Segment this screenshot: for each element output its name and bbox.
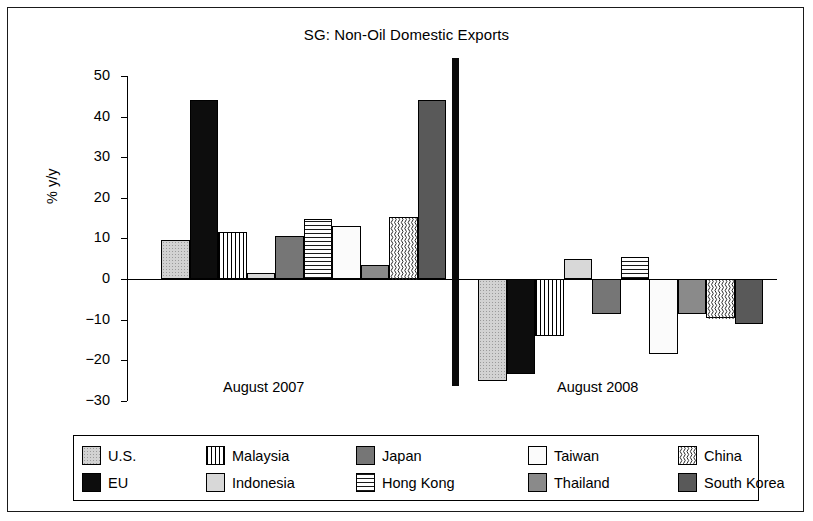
legend-swatch-icon (678, 446, 697, 465)
bar-eu-2008 (507, 279, 536, 374)
y-tick (121, 198, 127, 199)
bar-taiwan-2008 (649, 279, 678, 354)
group-label-2008: August 2008 (557, 379, 638, 395)
y-tick-label: 20 (64, 190, 110, 205)
legend-item-thailand[interactable]: Thailand (528, 473, 678, 492)
legend-swatch-icon (206, 446, 225, 465)
y-tick-label: 30 (64, 149, 110, 164)
legend-item-japan[interactable]: Japan (356, 446, 528, 465)
bar-hong-kong-2007 (304, 219, 333, 279)
legend-item-hong-kong[interactable]: Hong Kong (356, 473, 528, 492)
bar-hong-kong-2008 (621, 257, 650, 279)
bar-indonesia-2008 (564, 259, 593, 279)
legend-swatch-icon (206, 473, 225, 492)
bar-u-s-2008 (478, 279, 507, 381)
legend-item-taiwan[interactable]: Taiwan (528, 446, 678, 465)
legend-label: Japan (382, 448, 422, 464)
wavy-pattern (390, 218, 419, 280)
bar-japan-2007 (275, 236, 304, 279)
y-tick (121, 238, 127, 239)
legend-item-malaysia[interactable]: Malaysia (206, 446, 356, 465)
y-tick (121, 117, 127, 118)
bar-thailand-2008 (678, 279, 707, 314)
bar-u-s-2007 (161, 240, 190, 279)
y-tick-label: 0 (64, 271, 110, 286)
legend-swatch-icon (356, 473, 375, 492)
y-tick-label: 40 (64, 109, 110, 124)
bar-indonesia-2007 (247, 273, 276, 279)
legend-swatch-icon (528, 446, 547, 465)
bar-malaysia-2007 (218, 232, 247, 279)
wavy-pattern (707, 280, 736, 319)
legend-swatch-icon (678, 473, 697, 492)
legend-swatch-icon (82, 473, 101, 492)
group-label-2007: August 2007 (223, 379, 304, 395)
bar-malaysia-2008 (535, 279, 564, 336)
legend-label: Thailand (554, 475, 610, 491)
legend-label: Taiwan (554, 448, 599, 464)
legend-label: China (704, 448, 742, 464)
legend-label: Hong Kong (382, 475, 455, 491)
y-tick (121, 279, 127, 280)
y-tick (121, 157, 127, 158)
legend-label: Malaysia (232, 448, 289, 464)
bar-south-korea-2008 (735, 279, 764, 324)
period-divider (452, 58, 459, 386)
y-tick (121, 320, 127, 321)
legend-swatch-icon (82, 446, 101, 465)
wavy-pattern (679, 447, 697, 465)
y-tick-label: 50 (64, 68, 110, 83)
chart-frame: SG: Non-Oil Domestic Exports 50403020100… (7, 7, 804, 512)
bar-japan-2008 (592, 279, 621, 314)
bar-eu-2007 (190, 100, 219, 279)
bar-thailand-2007 (361, 265, 390, 279)
y-tick-label: 10 (64, 230, 110, 245)
y-tick-label: −30 (64, 393, 110, 408)
legend-swatch-icon (528, 473, 547, 492)
legend-item-eu[interactable]: EU (82, 473, 206, 492)
legend-label: U.S. (108, 448, 136, 464)
legend-label: Indonesia (232, 475, 295, 491)
legend-label: South Korea (704, 475, 785, 491)
bar-china-2007 (389, 217, 418, 279)
legend-item-south-korea[interactable]: South Korea (678, 473, 813, 492)
y-tick-label: −10 (64, 312, 110, 327)
bar-south-korea-2007 (418, 100, 447, 279)
y-axis-line (127, 76, 128, 401)
y-axis-title: % y/y (44, 169, 60, 204)
legend-item-indonesia[interactable]: Indonesia (206, 473, 356, 492)
legend-swatch-icon (356, 446, 375, 465)
bar-taiwan-2007 (332, 226, 361, 279)
legend-grid: U.S.MalaysiaJapanTaiwanChinaEUIndonesiaH… (82, 442, 750, 494)
y-tick (121, 76, 127, 77)
bar-china-2008 (706, 279, 735, 318)
y-tick (121, 401, 127, 402)
legend-label: EU (108, 475, 128, 491)
y-tick (121, 360, 127, 361)
y-tick-label: −20 (64, 352, 110, 367)
chart-legend: U.S.MalaysiaJapanTaiwanChinaEUIndonesiaH… (73, 435, 759, 501)
legend-item-u-s[interactable]: U.S. (82, 446, 206, 465)
legend-item-china[interactable]: China (678, 446, 813, 465)
